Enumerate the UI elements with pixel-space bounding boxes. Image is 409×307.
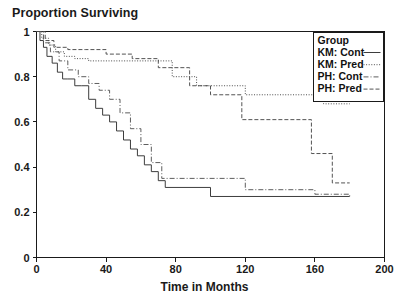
legend-entry-label: KM: Cont [318, 46, 365, 58]
legend-entry-label: KM: Pred [318, 58, 364, 70]
x-tick-label: 200 [375, 263, 393, 275]
survival-curve-figure: Proportion Surviving Time in Months 0408… [0, 0, 409, 307]
legend-title: Group [318, 34, 350, 46]
chart-canvas: 0408012016020000.20.40.60.81 GroupKM: Co… [0, 0, 409, 307]
curve-ph-pred [37, 32, 350, 183]
x-tick-label: 120 [236, 263, 254, 275]
y-tick-label: 0 [23, 252, 29, 264]
y-tick-label: 0.2 [14, 206, 29, 218]
x-tick-label: 40 [100, 263, 112, 275]
legend: GroupKM: ContKM: PredPH: ContPH: Pred [314, 33, 384, 102]
curve-ph-cont [37, 32, 350, 197]
data-curves [37, 32, 350, 197]
curve-km-cont [37, 32, 350, 197]
y-tick-label: 0.6 [14, 116, 29, 128]
y-tick-label: 1 [23, 26, 29, 38]
y-tick-label: 0.8 [14, 71, 29, 83]
curve-km-pred [37, 32, 350, 104]
legend-entry-label: PH: Cont [318, 70, 363, 82]
x-tick-label: 160 [306, 263, 324, 275]
x-tick-label: 0 [33, 263, 39, 275]
legend-entry-label: PH: Pred [318, 82, 362, 94]
y-tick-label: 0.4 [14, 161, 30, 173]
x-tick-label: 80 [170, 263, 182, 275]
